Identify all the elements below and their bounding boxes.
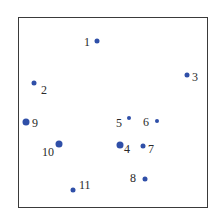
point-label-6: 6: [143, 116, 149, 128]
point-label-8: 8: [130, 172, 136, 184]
point-10: [56, 141, 63, 148]
point-9: [23, 119, 30, 126]
point-8: [143, 177, 148, 182]
point-2: [32, 81, 37, 86]
point-label-3: 3: [192, 71, 198, 83]
point-label-7: 7: [148, 143, 154, 155]
point-6: [155, 119, 159, 123]
point-label-9: 9: [32, 117, 38, 129]
point-5: [127, 116, 131, 120]
point-3: [185, 73, 190, 78]
point-7: [141, 144, 146, 149]
point-label-5: 5: [116, 117, 122, 129]
point-label-2: 2: [41, 84, 47, 96]
point-1: [95, 39, 100, 44]
point-label-4: 4: [124, 143, 130, 155]
plot-frame: [18, 17, 208, 208]
point-label-1: 1: [84, 36, 90, 48]
point-label-11: 11: [79, 179, 91, 191]
point-label-10: 10: [42, 146, 54, 158]
point-11: [71, 188, 76, 193]
point-4: [117, 142, 124, 149]
